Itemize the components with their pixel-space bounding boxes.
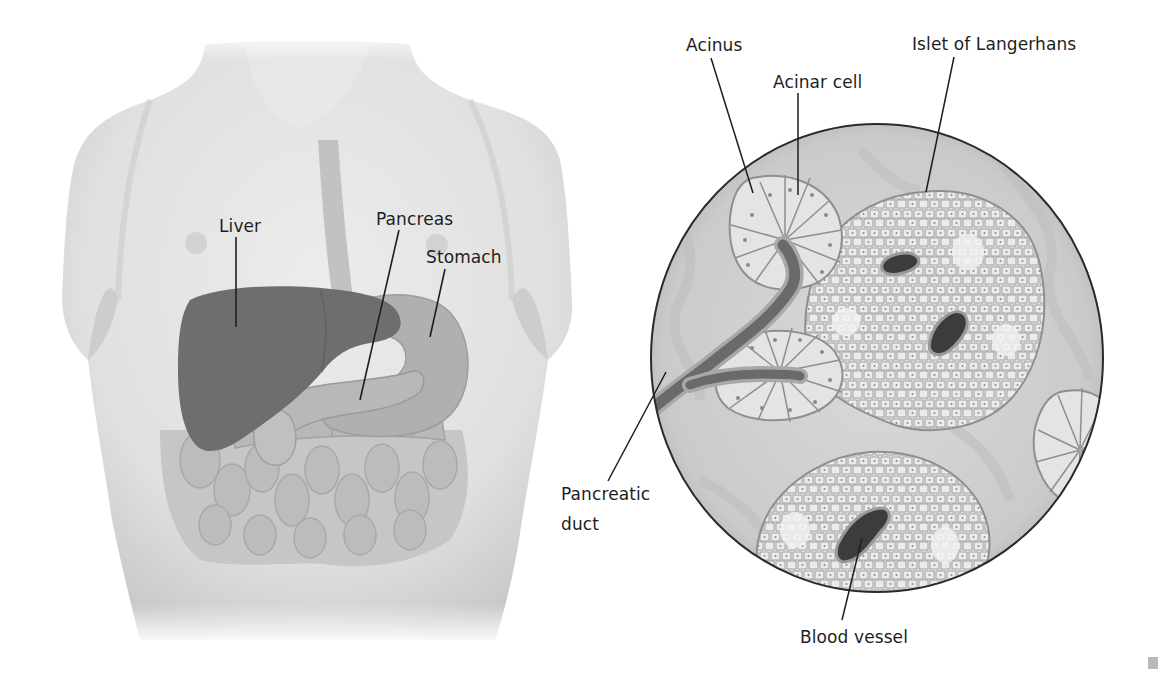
- label-islet-of-langerhans: Islet of Langerhans: [912, 34, 1076, 54]
- corner-mark: [1148, 657, 1158, 669]
- label-pancreas: Pancreas: [376, 209, 453, 229]
- label-acinar-cell: Acinar cell: [773, 72, 862, 92]
- leader-line-pancreatic-duct: [608, 372, 666, 481]
- leader-line-acinus: [711, 58, 753, 193]
- label-stomach: Stomach: [426, 247, 502, 267]
- pancreas-anatomy-figure: Liver Pancreas Stomach Acinus Acinar cel…: [0, 0, 1162, 685]
- label-pancreatic-duct: Pancreatic duct: [561, 479, 650, 539]
- tissue-magnification-circle: [640, 124, 1115, 605]
- figure-artwork: [0, 0, 1162, 685]
- torso-illustration: [40, 30, 600, 645]
- label-liver: Liver: [219, 216, 261, 236]
- nipple-left: [185, 232, 207, 254]
- label-blood-vessel: Blood vessel: [800, 627, 908, 647]
- label-acinus: Acinus: [686, 35, 742, 55]
